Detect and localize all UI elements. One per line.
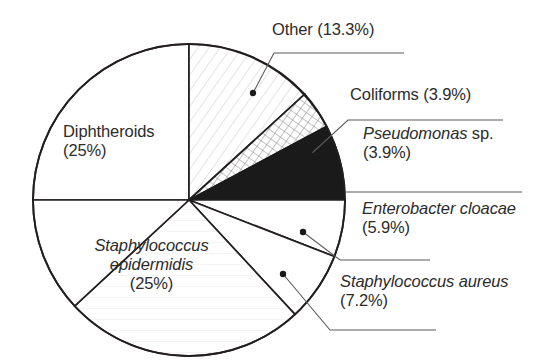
slice-label-enterobacter: Enterobacter cloacae (5.9%) (362, 199, 516, 237)
slice-label-staphylococcus-epidermidis-line1: Staphylococcus (64, 236, 239, 255)
slice-label-staphylococcus-epidermidis: Staphylococcus epidermidis (25%) (64, 236, 239, 293)
slice-label-pseudomonas-name: Pseudomonas sp. (363, 124, 494, 143)
slice-label-enterobacter-percent: (5.9%) (362, 218, 516, 237)
slice-label-diphtheroids: Diphtheroids (25%) (63, 122, 154, 160)
slice-label-other-text: Other (13.3%) (272, 20, 374, 39)
pie-chart-figure: Other (13.3%) Coliforms (3.9%) Pseudomon… (0, 0, 552, 364)
slice-label-staphylococcus-aureus-percent: (7.2%) (340, 291, 509, 310)
slice-label-pseudomonas-percent: (3.9%) (363, 143, 494, 162)
pie-slices (33, 44, 345, 356)
slice-label-diphtheroids-name: Diphtheroids (63, 122, 154, 141)
dot-staphylococcus-aureus (280, 271, 286, 277)
dot-coliforms (307, 152, 313, 158)
slice-label-staphylococcus-epidermidis-percent: (25%) (64, 274, 239, 293)
dot-other (250, 90, 256, 96)
dot-enterobacter (300, 229, 306, 235)
slice-label-other: Other (13.3%) (272, 20, 374, 39)
slice-label-enterobacter-name: Enterobacter cloacae (362, 199, 516, 218)
slice-label-coliforms-text: Coliforms (3.9%) (350, 85, 471, 104)
slice-label-diphtheroids-percent: (25%) (63, 141, 154, 160)
slice-label-pseudomonas-sp: sp. (467, 124, 493, 142)
slice-label-coliforms: Coliforms (3.9%) (350, 85, 471, 104)
slice-label-staphylococcus-aureus-name: Staphylococcus aureus (340, 272, 509, 291)
slice-label-staphylococcus-aureus: Staphylococcus aureus (7.2%) (340, 272, 509, 310)
slice-label-staphylococcus-epidermidis-line2: epidermidis (64, 255, 239, 274)
slice-label-pseudomonas-genus: Pseudomonas (363, 124, 467, 142)
slice-label-pseudomonas: Pseudomonas sp. (3.9%) (363, 124, 494, 162)
